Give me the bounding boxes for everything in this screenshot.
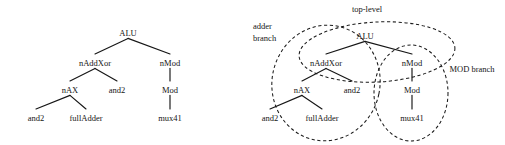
tree-edge-alu-to-naddxor [326,41,365,54]
tree-node-and2_b: and2 [262,113,279,123]
hierarchy-figure: ALUnAddXornModnAXand2Modand2fullAddermux… [0,0,505,145]
tree-node-and2_a: and2 [344,85,361,95]
group-labels: top-leveladderbranchMOD branch [253,4,495,74]
group-ring-top-level [298,18,457,86]
right-tree-panel: ALUnAddXornModnAXand2Modand2fullAddermux… [0,0,505,145]
tree-node-nmod: nMod [402,58,423,68]
tree-node-mod: Mod [404,85,421,95]
group-label-adder-branch: adderbranch [253,21,277,43]
tree-node-nax: nAX [294,85,311,95]
tree-node-naddxor: nAddXor [310,58,342,68]
tree-node-mux41: mux41 [400,113,424,123]
group-label-top-level: top-level [352,4,383,14]
tree-edge-nax-to-fulladder [302,95,322,109]
tree-node-alu: ALU [356,31,373,41]
group-label-mod-branch: MOD branch [449,64,495,74]
tree-edge-nax-to-and2_b [270,95,302,109]
tree-node-fulladder: fullAdder [305,113,338,123]
tree-edge-naddxor-to-and2_a [326,68,352,81]
tree-edge-naddxor-to-nax [302,68,326,81]
tree-edges [270,41,412,109]
